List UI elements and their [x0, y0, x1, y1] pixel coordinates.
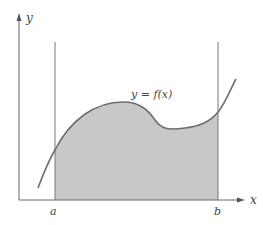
y-axis-label: y [25, 11, 33, 25]
curve-label: y = f(x) [130, 88, 172, 101]
upper-bound-label: b [214, 205, 221, 218]
shaded-area [55, 102, 218, 200]
area-under-curve-diagram: y x y = f(x) a b [0, 0, 263, 225]
x-axis-label: x [250, 193, 257, 207]
y-axis-arrow-icon [17, 13, 22, 21]
x-axis-arrow-icon [237, 198, 245, 203]
lower-bound-label: a [50, 205, 57, 218]
